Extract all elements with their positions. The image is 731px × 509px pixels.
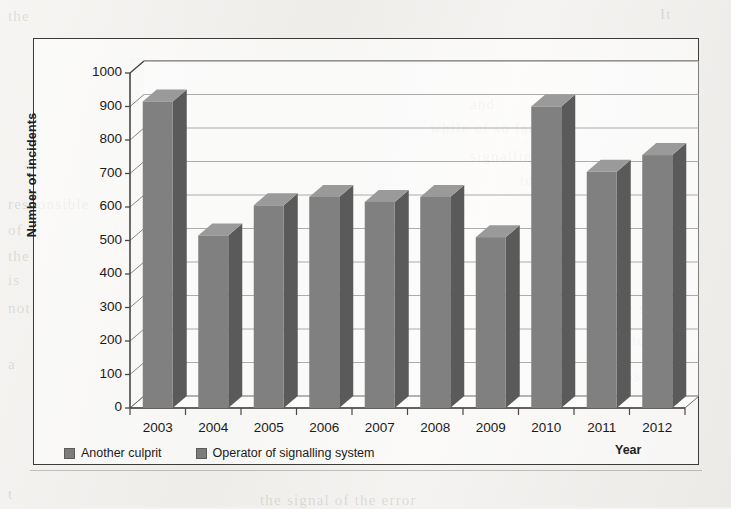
- x-tick-label: 2003: [131, 420, 185, 435]
- chart-legend: Another culpritOperator of signalling sy…: [64, 446, 375, 460]
- y-tick-label: 600: [68, 198, 122, 213]
- y-tick-label: 0: [68, 399, 122, 414]
- bar-2004: [198, 223, 242, 408]
- y-axis-title: Number of incidents: [25, 105, 39, 245]
- bar-2010: [531, 95, 575, 409]
- y-tick-label: 1000: [68, 64, 122, 79]
- bar-2006: [309, 185, 353, 408]
- legend-label: Another culprit: [81, 446, 162, 460]
- x-tick-label: 2005: [242, 420, 296, 435]
- bar-2005: [254, 193, 298, 408]
- x-tick-label: 2010: [519, 420, 573, 435]
- y-tick-label: 200: [68, 332, 122, 347]
- x-tick-label: 2006: [297, 420, 351, 435]
- y-tick-label: 800: [68, 131, 122, 146]
- bar-2009: [476, 225, 520, 408]
- x-tick-label: 2011: [575, 420, 629, 435]
- y-tick-label: 300: [68, 299, 122, 314]
- x-tick-label: 2012: [630, 420, 684, 435]
- bar-2011: [587, 160, 631, 408]
- legend-label: Operator of signalling system: [213, 446, 375, 460]
- bar-2003: [143, 89, 187, 408]
- y-tick-label: 400: [68, 265, 122, 280]
- x-tick-label: 2009: [464, 420, 518, 435]
- legend-swatch-icon: [64, 448, 75, 459]
- legend-swatch-icon: [196, 448, 207, 459]
- bar-2007: [365, 190, 409, 408]
- y-tick-label: 900: [68, 98, 122, 113]
- y-tick-label: 700: [68, 165, 122, 180]
- legend-item-1[interactable]: Operator of signalling system: [196, 446, 375, 460]
- y-tick-label: 500: [68, 232, 122, 247]
- bar-2008: [420, 185, 464, 408]
- page-rule-divider: [30, 470, 702, 471]
- x-tick-label: 2007: [353, 420, 407, 435]
- x-axis-title: Year: [615, 443, 641, 457]
- legend-item-0[interactable]: Another culprit: [64, 446, 162, 460]
- y-tick-label: 100: [68, 366, 122, 381]
- x-tick-label: 2008: [408, 420, 462, 435]
- x-tick-label: 2004: [186, 420, 240, 435]
- bar-2012: [642, 143, 686, 408]
